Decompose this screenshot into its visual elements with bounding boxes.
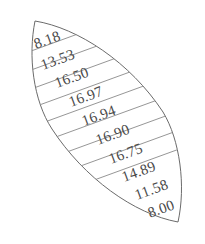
lens-diagram: 8.18 13.53 16.50 16.97 16.94 16.90 16.75… xyxy=(0,0,205,244)
figure-root: 8.18 13.53 16.50 16.97 16.94 16.90 16.75… xyxy=(0,0,205,244)
